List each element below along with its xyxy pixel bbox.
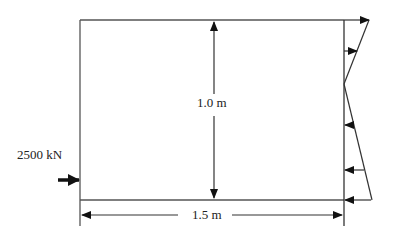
height-label: 1.0 m (197, 95, 227, 110)
structural-diagram: 1.0 m 1.5 m 2500 kN (0, 0, 411, 237)
width-label: 1.5 m (192, 207, 222, 222)
force-label: 2500 kN (17, 147, 62, 162)
block-outline (80, 20, 344, 226)
pressure-arrows (344, 20, 371, 200)
pressure-distribution-outline (344, 20, 372, 200)
